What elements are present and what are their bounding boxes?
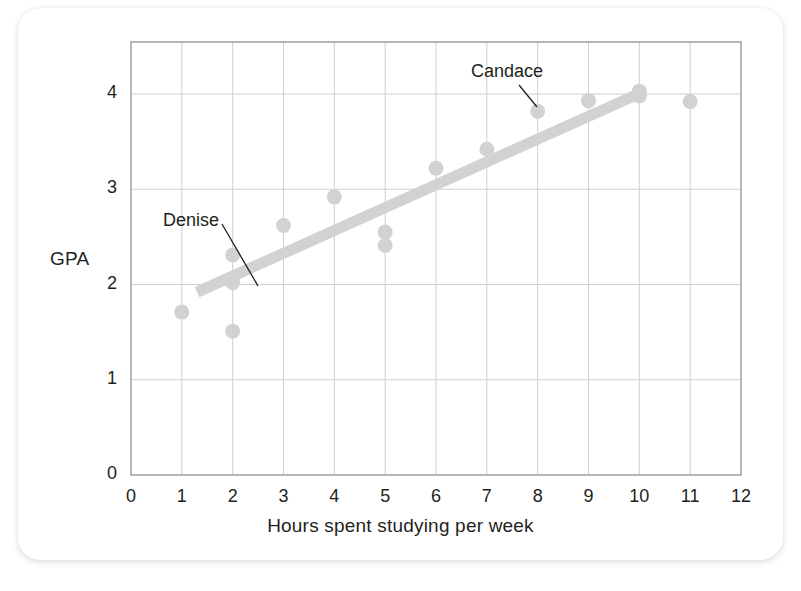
y-tick-label: 2 xyxy=(83,273,117,294)
x-tick-label: 7 xyxy=(467,486,507,507)
y-tick-label: 3 xyxy=(83,177,117,198)
x-tick-label: 10 xyxy=(619,486,659,507)
data-point xyxy=(174,305,189,320)
x-axis-title: Hours spent studying per week xyxy=(0,515,801,537)
x-tick-label: 9 xyxy=(569,486,609,507)
x-tick-label: 8 xyxy=(518,486,558,507)
data-point xyxy=(327,189,342,204)
x-tick-label: 1 xyxy=(162,486,202,507)
data-point xyxy=(632,88,647,103)
data-point-candace xyxy=(530,104,545,119)
data-point xyxy=(479,142,494,157)
leader-line xyxy=(519,85,537,107)
data-point xyxy=(429,161,444,176)
x-tick-label: 0 xyxy=(111,486,151,507)
data-point xyxy=(683,94,698,109)
data-point-denise xyxy=(225,275,240,290)
annotation-denise: Denise xyxy=(163,210,219,231)
x-tick-label: 11 xyxy=(670,486,710,507)
y-tick-label: 4 xyxy=(83,82,117,103)
x-tick-label: 6 xyxy=(416,486,456,507)
figure-page: Hours spent studying per week GPA 012345… xyxy=(0,0,801,591)
x-tick-label: 12 xyxy=(721,486,761,507)
y-tick-label: 1 xyxy=(83,368,117,389)
data-point xyxy=(225,324,240,339)
data-point xyxy=(225,247,240,262)
data-point xyxy=(378,225,393,240)
x-tick-label: 4 xyxy=(314,486,354,507)
annotation-candace: Candace xyxy=(471,61,543,82)
x-tick-label: 5 xyxy=(365,486,405,507)
x-tick-label: 3 xyxy=(264,486,304,507)
y-axis-title: GPA xyxy=(50,248,89,270)
x-tick-label: 2 xyxy=(213,486,253,507)
data-point xyxy=(276,218,291,233)
trend-line xyxy=(197,91,644,292)
y-tick-label: 0 xyxy=(83,463,117,484)
data-point xyxy=(378,238,393,253)
trend-line-segment xyxy=(197,91,644,292)
data-point xyxy=(581,93,596,108)
